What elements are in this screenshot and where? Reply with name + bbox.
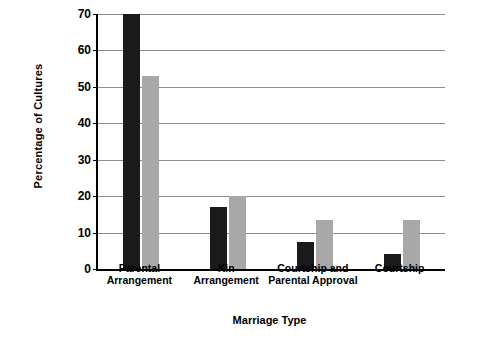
x-tick-label-line: Parental Approval [243, 274, 383, 286]
x-axis-title: Marriage Type [96, 314, 443, 326]
y-tick-mark [93, 14, 98, 15]
bar [123, 14, 140, 269]
y-tick-label: 70 [51, 7, 91, 21]
bar [142, 76, 159, 269]
y-tick-label: 20 [51, 189, 91, 203]
y-tick-mark [93, 50, 98, 51]
y-axis-title: Percentage of Cultures [32, 26, 44, 226]
y-tick-mark [93, 196, 98, 197]
y-tick-mark [93, 160, 98, 161]
bar [229, 196, 246, 269]
y-tick-label: 30 [51, 153, 91, 167]
y-tick-label: 50 [51, 80, 91, 94]
y-tick-mark [93, 87, 98, 88]
bar-chart: Percentage of Cultures 010203040506070 M… [0, 0, 494, 352]
x-tick-label: Courtship [330, 262, 470, 274]
y-tick-label: 40 [51, 116, 91, 130]
y-tick-label: 60 [51, 43, 91, 57]
y-tick-mark [93, 233, 98, 234]
x-tick-label-line: Courtship [330, 262, 470, 274]
gridline [98, 14, 445, 15]
y-tick-mark [93, 123, 98, 124]
y-tick-label: 10 [51, 226, 91, 240]
gridline [98, 50, 445, 51]
plot-area: 010203040506070 [96, 14, 445, 271]
bar [210, 207, 227, 269]
